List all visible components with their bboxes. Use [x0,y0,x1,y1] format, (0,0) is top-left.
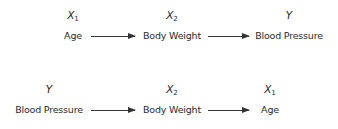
node-blood-pressure: Y Blood Pressure [15,83,83,116]
node-label: Body Weight [143,30,201,42]
variable-symbol: X2 [143,83,201,95]
node-label: Age [64,30,82,42]
node-age: X1 Age [64,9,82,42]
arrow-right-icon [91,36,135,37]
node-body-weight: X2 Body Weight [143,83,201,116]
node-age: X1 Age [261,83,279,116]
arrow-right-icon [208,36,249,37]
node-blood-pressure: Y Blood Pressure [255,9,323,42]
arrow-right-icon [91,110,135,111]
node-label: Blood Pressure [15,104,83,116]
variable-symbol: X1 [64,9,82,21]
variable-symbol: X2 [143,9,201,21]
node-label: Age [261,104,279,116]
node-body-weight: X2 Body Weight [143,9,201,42]
variable-symbol: X1 [261,83,279,95]
arrow-right-icon [208,110,249,111]
node-label: Blood Pressure [255,30,323,42]
variable-symbol: Y [255,9,323,21]
node-label: Body Weight [143,104,201,116]
variable-symbol: Y [15,83,83,95]
